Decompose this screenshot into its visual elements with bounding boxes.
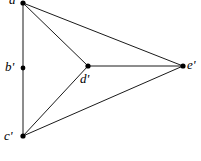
vertex-dot-d[interactable]: [85, 63, 90, 68]
edge-c-e: [23, 66, 183, 136]
geometric-figure: a'b'c'd'e': [0, 0, 201, 161]
vertex-dot-a[interactable]: [20, 0, 25, 5]
figure-canvas: [0, 0, 201, 161]
vertex-label-c: c': [4, 129, 13, 142]
vertex-label-a: a': [9, 0, 18, 6]
vertex-dot-e[interactable]: [180, 63, 185, 68]
vertex-dot-b[interactable]: [21, 66, 26, 71]
edge-a-e: [23, 3, 183, 66]
vertex-label-e: e': [187, 58, 196, 71]
vertex-label-b: b': [5, 60, 14, 73]
edge-a-d: [23, 3, 88, 66]
vertex-dot-c[interactable]: [20, 133, 25, 138]
edge-c-d: [23, 66, 88, 136]
vertex-label-d: d': [80, 72, 89, 85]
edges-group: [23, 3, 183, 136]
vertices-group: [20, 0, 185, 138]
